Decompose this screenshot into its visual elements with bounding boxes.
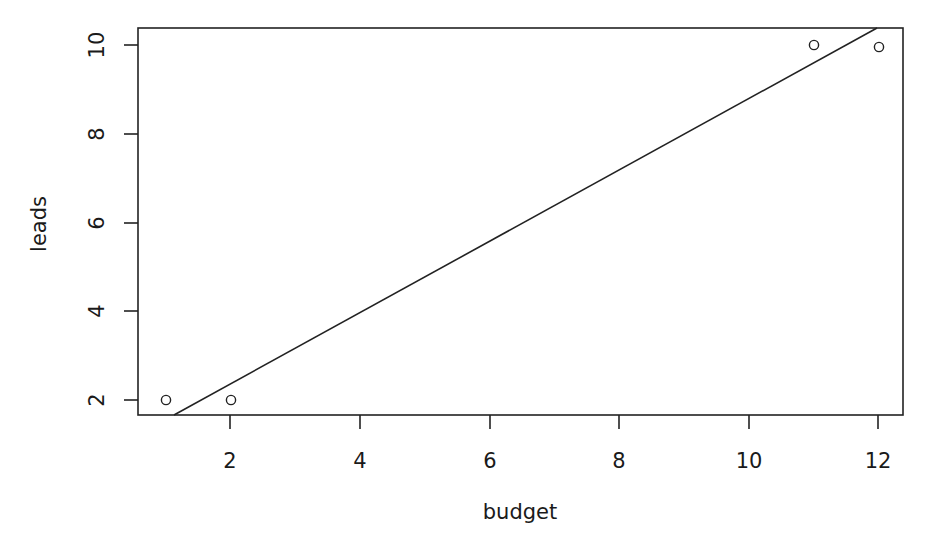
x-tick-label-4: 4: [353, 449, 366, 473]
y-axis-title: leads: [27, 196, 51, 252]
y-tick-label-6: 6: [85, 216, 109, 229]
y-tick-label-10: 10: [85, 32, 109, 59]
y-tick-label-2: 2: [85, 393, 109, 406]
x-tick-label-6: 6: [483, 449, 496, 473]
x-tick-label-10: 10: [736, 449, 763, 473]
x-axis-title: budget: [483, 500, 557, 524]
figure-background: [0, 0, 934, 556]
x-tick-label-12: 12: [865, 449, 892, 473]
x-tick-label-2: 2: [223, 449, 236, 473]
scatter-plot-figure: 2 4 6 8 10 12 2 4 6 8 10 leads budget: [0, 0, 934, 556]
y-tick-label-8: 8: [85, 127, 109, 140]
y-tick-label-4: 4: [85, 304, 109, 317]
r-plot-canvas: 2 4 6 8 10 12 2 4 6 8 10 leads budget: [0, 0, 934, 556]
x-tick-label-8: 8: [612, 449, 625, 473]
